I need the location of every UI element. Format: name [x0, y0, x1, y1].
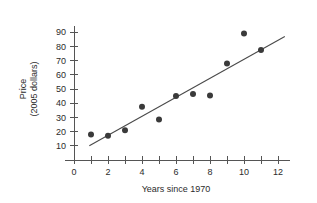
data-point — [207, 92, 213, 98]
y-tick-label: 10 — [56, 141, 66, 151]
plot-canvas: 102030405060708090 024681012 Years since… — [0, 0, 317, 203]
y-axis: 102030405060708090 — [56, 26, 78, 160]
data-point — [241, 31, 247, 37]
data-point — [139, 104, 145, 110]
y-tick-label: 70 — [56, 56, 66, 66]
x-axis-title: Years since 1970 — [142, 184, 211, 194]
y-tick-label: 30 — [56, 113, 66, 123]
data-points-group — [88, 31, 264, 139]
x-tick-label: 12 — [273, 167, 283, 177]
x-tick-label: 8 — [207, 167, 212, 177]
data-point — [88, 131, 94, 137]
data-point — [224, 60, 230, 66]
x-axis: 024681012 — [65, 156, 290, 177]
trend-line-segment — [89, 36, 284, 145]
data-point — [105, 133, 111, 139]
scatter-plot-figure: 102030405060708090 024681012 Years since… — [0, 0, 317, 203]
y-tick-label: 20 — [56, 127, 66, 137]
y-tick-label: 50 — [56, 84, 66, 94]
trend-line — [89, 36, 284, 145]
data-point — [190, 91, 196, 97]
x-tick-label: 6 — [173, 167, 178, 177]
y-tick-label: 90 — [56, 27, 66, 37]
data-point — [173, 93, 179, 99]
y-tick-label: 80 — [56, 42, 66, 52]
data-point — [258, 47, 264, 53]
y-tick-label: 60 — [56, 70, 66, 80]
data-point — [156, 117, 162, 123]
y-axis-title-line2: (2005 dollars) — [29, 61, 39, 116]
x-tick-label: 2 — [105, 167, 110, 177]
data-point — [122, 127, 128, 133]
x-tick-label: 10 — [239, 167, 249, 177]
y-axis-title-line1: Price — [18, 79, 28, 100]
x-tick-label: 4 — [139, 167, 144, 177]
x-tick-label: 0 — [71, 167, 76, 177]
y-tick-label: 40 — [56, 98, 66, 108]
axis-titles-group: Years since 1970Price(2005 dollars) — [18, 61, 210, 194]
